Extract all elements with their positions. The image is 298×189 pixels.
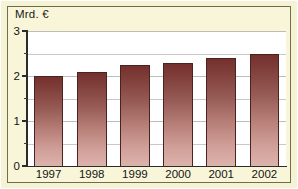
bar-slot <box>27 31 70 166</box>
chart-figure: Mrd. € 0123 199719981999200020012002 <box>0 0 298 189</box>
y-tick-minor-1-5 <box>24 98 28 100</box>
y-tick-major-3 <box>22 30 27 32</box>
y-tick-major-2 <box>22 75 27 77</box>
bar-1998[interactable] <box>77 72 107 167</box>
y-tick-label-2: 2 <box>4 70 20 82</box>
x-tick-label-2001: 2001 <box>200 168 243 180</box>
bar-slot <box>113 31 156 166</box>
bar-2000[interactable] <box>163 63 193 167</box>
bar-slot <box>70 31 113 166</box>
x-tick-label-1997: 1997 <box>27 168 70 180</box>
bar-1999[interactable] <box>120 65 150 166</box>
bar-slot <box>200 31 243 166</box>
x-tick-label-2002: 2002 <box>243 168 286 180</box>
x-tick-label-1999: 1999 <box>113 168 156 180</box>
y-tick-major-0 <box>22 165 27 167</box>
y-tick-minor-2-5 <box>24 53 28 55</box>
y-tick-label-1: 1 <box>4 115 20 127</box>
x-axis-tick-labels: 199719981999200020012002 <box>27 168 286 188</box>
x-tick-label-1998: 1998 <box>70 168 113 180</box>
y-tick-label-0: 0 <box>4 160 20 172</box>
y-tick-minor-0-5 <box>24 143 28 145</box>
bar-series <box>27 31 286 166</box>
y-axis-unit-label: Mrd. € <box>15 8 49 20</box>
bar-2002[interactable] <box>250 54 280 167</box>
bar-slot <box>243 31 286 166</box>
y-tick-major-1 <box>22 120 27 122</box>
bar-2001[interactable] <box>206 58 236 166</box>
y-tick-label-3: 3 <box>4 25 20 37</box>
y-axis-tick-labels: 0123 <box>1 1 20 189</box>
x-tick-label-2000: 2000 <box>157 168 200 180</box>
bar-slot <box>157 31 200 166</box>
bar-1997[interactable] <box>34 76 64 166</box>
